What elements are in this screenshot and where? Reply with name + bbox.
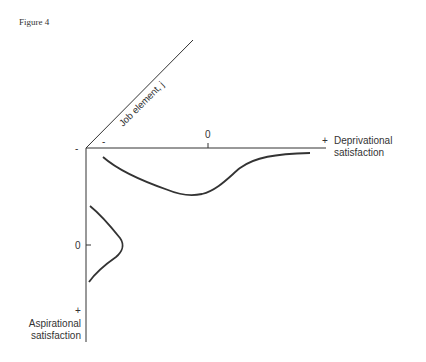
job-element-label: Job element, j (117, 79, 167, 129)
origin-minus-label: - (75, 143, 78, 154)
horizontal-plus-label: + (322, 135, 328, 146)
aspirational-label-line1: Aspirational (29, 318, 81, 329)
deprivational-label-line2: satisfaction (334, 147, 384, 158)
horizontal-zero-label: 0 (205, 129, 211, 140)
vertical-plus-label: + (75, 305, 81, 316)
deprivational-label-line1: Deprivational (334, 135, 392, 146)
aspirational-distribution-curve (89, 206, 123, 282)
horizontal-minus-label: - (102, 136, 105, 147)
diagram-canvas: Job element, j - - 0 + Deprivational sat… (0, 0, 426, 362)
aspirational-label-line2: satisfaction (31, 330, 81, 341)
job-element-axis (86, 40, 193, 148)
vertical-zero-label: 0 (75, 240, 81, 251)
deprivational-distribution-curve (103, 153, 310, 195)
